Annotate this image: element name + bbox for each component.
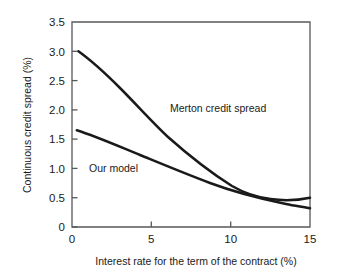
data-series-group (77, 51, 310, 208)
y-tick-label-3_0: 3.0 (49, 46, 65, 58)
axis-frame-path (72, 22, 310, 227)
y-axis-ticks (72, 51, 78, 227)
y-tick-label-1_5: 1.5 (49, 133, 65, 145)
y-axis-tick-labels: 0 0.5 1.0 1.5 2.0 2.5 3.0 3.5 (49, 16, 65, 233)
y-tick-label-0_5: 0.5 (49, 192, 65, 204)
y-tick-label-3_5: 3.5 (49, 16, 65, 28)
chart-canvas: 0 0.5 1.0 1.5 2.0 2.5 3.0 3.5 0 5 10 15 … (0, 0, 340, 279)
x-axis-tick-labels: 0 5 10 15 (69, 233, 317, 245)
x-tick-label-10: 10 (224, 233, 237, 245)
y-tick-label-2_0: 2.0 (49, 104, 65, 116)
y-tick-label-2_5: 2.5 (49, 75, 65, 87)
x-tick-label-0: 0 (69, 233, 75, 245)
x-tick-label-5: 5 (148, 233, 154, 245)
credit-spread-chart-figure: 0 0.5 1.0 1.5 2.0 2.5 3.0 3.5 0 5 10 15 … (0, 0, 340, 279)
x-tick-label-15: 15 (304, 233, 317, 245)
series-label-our-model: Our model (89, 162, 138, 174)
y-axis-title: Continuous credit spread (%) (21, 57, 33, 193)
y-tick-label-1_0: 1.0 (49, 163, 65, 175)
x-axis-title: Interest rate for the term of the contra… (95, 255, 296, 267)
series-label-merton-credit-spread: Merton credit spread (170, 102, 266, 114)
y-tick-label-0: 0 (59, 221, 65, 233)
x-axis-ticks (151, 222, 230, 228)
plot-frame (72, 22, 310, 227)
